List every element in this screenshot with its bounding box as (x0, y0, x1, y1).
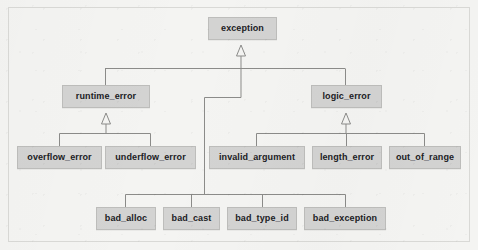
class-node-label: out_of_range (396, 153, 454, 162)
class-node-bad-cast[interactable]: bad_cast (163, 207, 220, 230)
class-node-underflow-error[interactable]: underflow_error (105, 146, 196, 169)
edge-routing-exception-to-bad-group (205, 69, 242, 195)
class-node-label: bad_type_id (235, 214, 289, 223)
class-node-invalid-argument[interactable]: invalid_argument (209, 146, 305, 169)
class-node-runtime-error[interactable]: runtime_error (62, 85, 150, 108)
class-node-out-of-range[interactable]: out_of_range (389, 146, 461, 169)
class-node-label: bad_cast (172, 214, 212, 223)
class-node-bad-exception[interactable]: bad_exception (304, 207, 386, 230)
class-node-exception[interactable]: exception (208, 17, 277, 40)
class-node-label: exception (221, 24, 264, 33)
class-node-label: invalid_argument (219, 153, 295, 162)
exception-hierarchy-diagram: exception runtime_error logic_error over… (0, 0, 478, 250)
class-node-label: length_error (320, 153, 374, 162)
class-node-label: bad_alloc (105, 214, 147, 223)
generalization-arrowhead-runtime-error (102, 113, 111, 124)
class-node-overflow-error[interactable]: overflow_error (17, 146, 102, 169)
class-node-logic-error[interactable]: logic_error (311, 85, 382, 108)
class-node-label: bad_exception (313, 214, 377, 223)
generalization-arrowhead-logic-error (342, 113, 351, 124)
class-node-bad-type-id[interactable]: bad_type_id (227, 207, 297, 230)
class-node-label: runtime_error (76, 92, 136, 101)
class-node-label: underflow_error (115, 153, 186, 162)
class-node-bad-alloc[interactable]: bad_alloc (96, 207, 156, 230)
edge-group-runtime-error-children (60, 113, 151, 146)
class-node-length-error[interactable]: length_error (312, 146, 382, 169)
edge-group-bad-classes (126, 195, 346, 208)
class-node-label: overflow_error (27, 153, 91, 162)
class-node-label: logic_error (322, 92, 370, 101)
generalization-arrowhead-exception (237, 45, 246, 56)
edge-group-exception-children (105, 45, 346, 195)
edge-group-logic-error-children (257, 113, 425, 146)
